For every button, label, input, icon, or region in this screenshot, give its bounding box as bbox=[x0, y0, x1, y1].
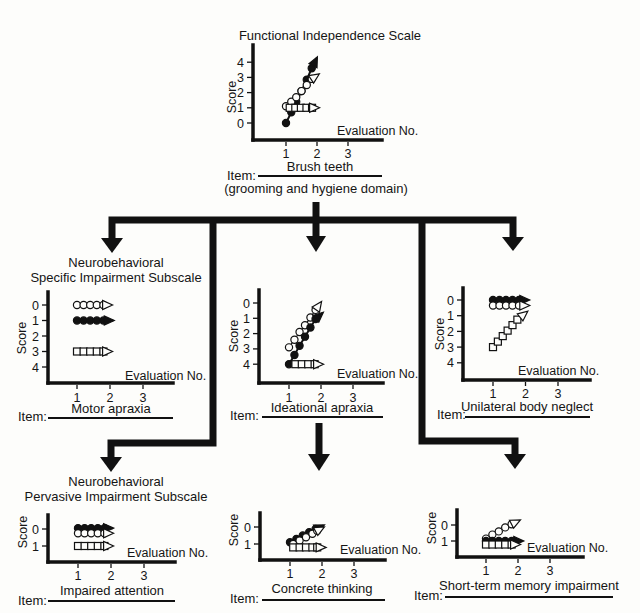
open-arrowhead-icon bbox=[104, 542, 114, 551]
filled-arrowhead-icon bbox=[104, 316, 114, 325]
y-axis-label: Score bbox=[433, 318, 447, 351]
y-tick-label: 4 bbox=[243, 358, 250, 372]
open-arrowhead-icon bbox=[103, 347, 113, 356]
functional-independence-title: Functional Independence Scale bbox=[239, 28, 421, 43]
data-point-square bbox=[88, 543, 95, 550]
x-axis-label: Evaluation No. bbox=[127, 546, 208, 560]
y-tick-label: 0 bbox=[32, 299, 39, 313]
open-arrowhead-icon bbox=[103, 301, 113, 310]
arrow-down-icon bbox=[306, 236, 326, 252]
arrow-down-icon bbox=[100, 457, 122, 472]
item-prefix: Item: bbox=[18, 593, 47, 608]
x-axis-label: Evaluation No. bbox=[340, 543, 421, 557]
arrow-down-icon bbox=[504, 454, 526, 469]
data-point-square bbox=[81, 543, 88, 550]
y-axis-label: Score bbox=[425, 512, 439, 545]
y-axis-label: Score bbox=[227, 320, 241, 353]
y-tick-label: 0 bbox=[447, 294, 454, 308]
y-tick-label: 1 bbox=[447, 309, 454, 323]
data-point-open-circle bbox=[303, 81, 310, 88]
functional-assessment-diagram: Functional Independence Scale Neurobehav… bbox=[0, 0, 640, 613]
item-caption-ideational-apraxia: Item: Ideational apraxia bbox=[230, 400, 383, 423]
y-axis-label: Score bbox=[225, 81, 239, 114]
y-axis-label: Score bbox=[227, 514, 241, 547]
specific-subscale-title-line1: Neurobehavioral bbox=[68, 255, 164, 270]
data-series-open-square bbox=[290, 543, 327, 552]
x-tick-label: 2 bbox=[515, 564, 522, 578]
y-tick-label: 1 bbox=[32, 540, 39, 554]
data-point-square bbox=[94, 543, 101, 550]
data-series-open-circle bbox=[285, 301, 321, 351]
specific-subscale-title-line2: Specific Impairment Subscale bbox=[30, 270, 201, 285]
x-tick-label: 3 bbox=[547, 564, 554, 578]
chart-motor-apraxia: 01234123 bbox=[32, 292, 173, 405]
y-axis-label: Score bbox=[16, 516, 30, 549]
data-point-filled-circle bbox=[282, 119, 289, 126]
arrow-down-icon bbox=[308, 454, 330, 471]
data-point-open-circle bbox=[293, 94, 300, 101]
item-caption-short-term-memory: Item: Short-term memory impairment bbox=[414, 578, 619, 603]
x-tick-label: 3 bbox=[351, 567, 358, 581]
data-point-filled-circle bbox=[296, 342, 303, 349]
y-tick-label: 3 bbox=[243, 342, 250, 356]
x-axis-label: Evaluation No. bbox=[518, 364, 599, 378]
data-series-open-square bbox=[75, 542, 114, 551]
item-name: Motor apraxia bbox=[71, 401, 151, 416]
pervasive-subscale-title-line2: Pervasive Impairment Subscale bbox=[25, 489, 208, 504]
y-tick-label: 0 bbox=[441, 519, 448, 533]
arrow-down-icon bbox=[502, 237, 524, 251]
item-name: Short-term memory impairment bbox=[439, 578, 619, 593]
item-domain-note: (grooming and hygiene domain) bbox=[224, 181, 408, 196]
x-axis-label: Evaluation No. bbox=[337, 367, 418, 381]
y-tick-label: 1 bbox=[243, 312, 250, 326]
x-axis-label: Evaluation No. bbox=[337, 124, 418, 138]
x-tick-label: 1 bbox=[287, 567, 294, 581]
item-name: Concrete thinking bbox=[271, 581, 372, 596]
data-point-square bbox=[80, 348, 87, 355]
y-tick-label: 0 bbox=[243, 297, 250, 311]
y-tick-label: 0 bbox=[244, 521, 251, 535]
x-axis-label: Evaluation No. bbox=[125, 369, 206, 383]
x-tick-label: 3 bbox=[141, 569, 148, 583]
data-series-open-square bbox=[490, 311, 528, 351]
data-series-filled-circle bbox=[73, 316, 114, 325]
item-name: Ideational apraxia bbox=[271, 400, 374, 415]
y-tick-label: 0 bbox=[237, 117, 244, 131]
data-point-open-circle bbox=[285, 344, 292, 351]
data-point-square bbox=[93, 348, 100, 355]
x-tick-label: 1 bbox=[483, 564, 490, 578]
data-series-open-square bbox=[286, 103, 319, 112]
item-caption-motor-apraxia: Item: Motor apraxia bbox=[18, 401, 173, 424]
x-axis-label: Evaluation No. bbox=[527, 541, 608, 555]
y-tick-label: 3 bbox=[447, 341, 454, 355]
data-series-open-square bbox=[74, 347, 113, 356]
data-point-filled-circle bbox=[301, 333, 308, 340]
item-prefix: Item: bbox=[230, 591, 259, 606]
item-prefix: Item: bbox=[230, 408, 259, 423]
data-point-filled-circle bbox=[291, 351, 298, 358]
x-tick-label: 2 bbox=[319, 567, 326, 581]
item-name: Brush teeth bbox=[287, 159, 354, 174]
data-point-open-circle bbox=[298, 87, 305, 94]
y-tick-label: 2 bbox=[447, 325, 454, 339]
item-caption-unilateral-body-neglect: Item: Unilateral body neglect bbox=[437, 399, 594, 422]
data-series-open-square bbox=[292, 360, 324, 369]
y-tick-label: 0 bbox=[32, 523, 39, 537]
y-tick-label: 2 bbox=[243, 327, 250, 341]
item-caption-brush-teeth: Item: Brush teeth (grooming and hygiene … bbox=[224, 159, 408, 196]
y-tick-label: 2 bbox=[32, 330, 39, 344]
chart-unilateral-body-neglect: 01234123 bbox=[447, 288, 590, 401]
data-point-square bbox=[75, 543, 82, 550]
y-tick-label: 4 bbox=[32, 361, 39, 375]
data-series-open-square bbox=[483, 540, 521, 549]
data-point-square bbox=[87, 348, 94, 355]
x-tick-label: 1 bbox=[75, 569, 82, 583]
item-caption-concrete-thinking: Item: Concrete thinking bbox=[230, 581, 385, 606]
y-axis-label: Score bbox=[15, 322, 29, 355]
data-point-square bbox=[74, 348, 81, 355]
data-series-open-circle bbox=[74, 529, 113, 538]
data-point-open-circle bbox=[291, 336, 298, 343]
y-tick-label: 1 bbox=[441, 535, 448, 549]
item-caption-impaired-attention: Item: Impaired attention bbox=[18, 583, 175, 608]
y-tick-label: 3 bbox=[32, 345, 39, 359]
